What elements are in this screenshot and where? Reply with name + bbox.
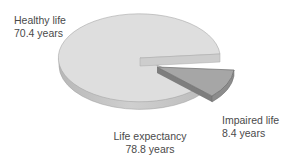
label-impaired-life-value: 8.4 years [222,127,279,140]
label-life-expectancy-value: 78.8 years [100,143,200,156]
label-healthy-life-value: 70.4 years [14,27,66,40]
slice-healthy-life [58,14,220,110]
label-life-expectancy-name: Life expectancy [100,130,200,143]
label-impaired-life: Impaired life 8.4 years [222,114,279,140]
label-life-expectancy: Life expectancy 78.8 years [100,130,200,156]
label-healthy-life: Healthy life 70.4 years [14,14,66,40]
label-healthy-life-name: Healthy life [14,14,66,27]
label-impaired-life-name: Impaired life [222,114,279,127]
